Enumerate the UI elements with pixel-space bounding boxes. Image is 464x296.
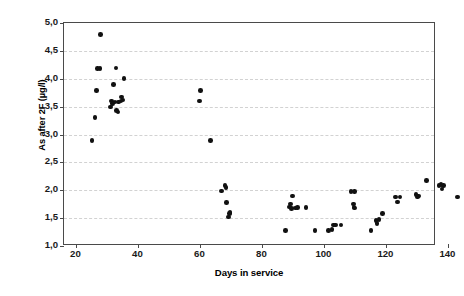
y-tick-mark (60, 107, 64, 108)
data-point (352, 206, 357, 211)
data-point (94, 88, 99, 93)
gridline (64, 51, 434, 52)
data-point (339, 223, 344, 228)
data-point (304, 205, 309, 210)
plot-area (63, 22, 435, 245)
data-point (424, 178, 429, 183)
x-tick-label: 60 (179, 249, 219, 259)
data-point (283, 228, 288, 233)
x-tick-label: 120 (365, 249, 405, 259)
y-tick-mark (60, 246, 64, 247)
y-tick-label: 4,0 (32, 73, 58, 83)
data-point (330, 227, 335, 232)
data-point (93, 115, 98, 120)
data-point (395, 200, 400, 205)
data-point (98, 66, 103, 71)
data-point (313, 228, 318, 233)
gridline (64, 162, 434, 163)
y-tick-mark (60, 135, 64, 136)
data-point (108, 105, 113, 110)
data-point (375, 221, 380, 226)
y-tick-label: 4,5 (32, 45, 58, 55)
data-point (377, 217, 382, 222)
data-point (369, 228, 374, 233)
data-point (121, 98, 126, 103)
x-tick-label: 140 (427, 249, 464, 259)
data-point (197, 99, 202, 104)
y-tick-mark (60, 162, 64, 163)
data-point (224, 185, 229, 190)
x-axis-tick-labels: 20406080100120140 (0, 249, 459, 265)
gridline (64, 190, 434, 191)
x-tick-label: 100 (303, 249, 343, 259)
gridline (64, 135, 434, 136)
data-point (114, 66, 119, 71)
data-point (455, 195, 460, 200)
data-point (224, 200, 229, 205)
data-point (90, 138, 95, 143)
y-tick-mark (60, 190, 64, 191)
data-point (116, 110, 121, 115)
gridline (64, 107, 434, 108)
y-tick-label: 3,0 (32, 129, 58, 139)
x-tick-label: 40 (117, 249, 157, 259)
data-point (333, 223, 338, 228)
data-point (122, 76, 127, 81)
data-point (290, 194, 295, 199)
data-point (416, 194, 421, 199)
data-point (380, 211, 385, 216)
y-tick-label: 1,5 (32, 212, 58, 222)
y-tick-mark (60, 51, 64, 52)
y-tick-label: 5,0 (32, 17, 58, 27)
data-point (441, 183, 446, 188)
y-tick-mark (60, 79, 64, 80)
x-tick-label: 80 (241, 249, 281, 259)
gridline (64, 79, 434, 80)
y-tick-label: 2,5 (32, 156, 58, 166)
y-tick-label: 3,5 (32, 101, 58, 111)
x-tick-label: 20 (55, 249, 95, 259)
data-point (111, 82, 116, 87)
data-point (98, 32, 103, 37)
x-axis-title: Days in service (63, 267, 435, 278)
y-tick-mark (60, 218, 64, 219)
data-point (352, 189, 357, 194)
data-point (208, 138, 213, 143)
y-tick-label: 2,0 (32, 184, 58, 194)
data-point (198, 88, 203, 93)
data-point (219, 189, 224, 194)
data-point (398, 195, 403, 200)
y-tick-mark (60, 23, 64, 24)
data-point (295, 205, 300, 210)
